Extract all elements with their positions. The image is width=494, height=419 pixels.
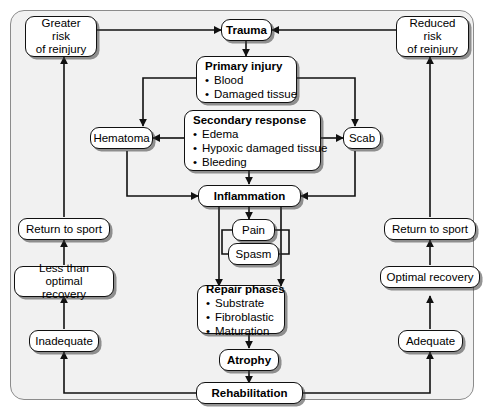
node-adequate[interactable]: Adequate (398, 330, 463, 352)
node-optimal-recovery[interactable]: Optimal recovery (380, 266, 480, 288)
node-item-list: Blood Damaged tissue (205, 73, 297, 101)
list-item: Fibroblastic (206, 310, 274, 324)
node-secondary-response[interactable]: Secondary response Edema Hypoxic damaged… (184, 110, 321, 171)
node-heading: Primary injury (205, 59, 282, 73)
node-label-line1: Reduced risk (397, 17, 468, 43)
node-label-line2: recovery (36, 288, 92, 301)
node-label: Optimal recovery (381, 271, 480, 284)
node-label-line2: of reinjury (30, 43, 93, 56)
node-label: Return to sport (20, 223, 108, 236)
node-label: Inflammation (208, 190, 292, 203)
node-scab[interactable]: Scab (343, 127, 381, 149)
node-label: Pain (236, 224, 271, 237)
node-primary-injury[interactable]: Primary injury Blood Damaged tissue (196, 56, 297, 103)
node-return-to-sport-left[interactable]: Return to sport (18, 218, 110, 240)
list-item: Edema (193, 127, 327, 141)
node-label: Atrophy (221, 354, 277, 367)
list-item: Blood (205, 73, 297, 87)
list-item: Substrate (206, 296, 274, 310)
node-repair-phases[interactable]: Repair phases Substrate Fibroblastic Mat… (197, 285, 285, 334)
node-label: Spasm (230, 248, 278, 261)
node-less-than-optimal-recovery[interactable]: Less than optimal recovery (14, 266, 114, 297)
node-reduced-risk-of-reinjury[interactable]: Reduced risk of reinjury (396, 16, 469, 57)
node-label: Rehabilitation (205, 387, 293, 400)
node-label-line1: Greater risk (26, 17, 96, 43)
node-spasm[interactable]: Spasm (228, 243, 279, 265)
node-label: Inadequate (29, 335, 99, 348)
node-inadequate[interactable]: Inadequate (29, 330, 99, 352)
node-item-list: Substrate Fibroblastic Maturation (206, 296, 274, 338)
list-item: Hypoxic damaged tissue (193, 141, 327, 155)
node-return-to-sport-right[interactable]: Return to sport (384, 218, 476, 240)
list-item: Damaged tissue (205, 87, 297, 101)
node-label-line1: Less than optimal (15, 262, 113, 288)
list-item: Maturation (206, 324, 274, 338)
list-item: Bleeding (193, 155, 327, 169)
node-label-line2: of reinjury (401, 43, 464, 56)
node-label: Hematoma (87, 132, 155, 145)
node-item-list: Edema Hypoxic damaged tissue Bleeding (193, 127, 327, 169)
node-label: Trauma (220, 24, 273, 37)
diagram-canvas: Greater risk of reinjury Trauma Reduced … (0, 0, 494, 419)
node-rehabilitation[interactable]: Rehabilitation (196, 382, 303, 404)
node-trauma[interactable]: Trauma (221, 19, 272, 41)
node-greater-risk-of-reinjury[interactable]: Greater risk of reinjury (25, 16, 97, 57)
node-pain[interactable]: Pain (232, 219, 275, 241)
node-heading: Secondary response (193, 113, 306, 127)
node-label: Return to sport (386, 223, 474, 236)
node-heading: Repair phases (206, 282, 285, 296)
node-inflammation[interactable]: Inflammation (198, 185, 301, 207)
node-atrophy[interactable]: Atrophy (219, 349, 279, 371)
node-label: Scab (343, 132, 381, 145)
node-label: Adequate (400, 335, 461, 348)
node-hematoma[interactable]: Hematoma (90, 127, 153, 149)
